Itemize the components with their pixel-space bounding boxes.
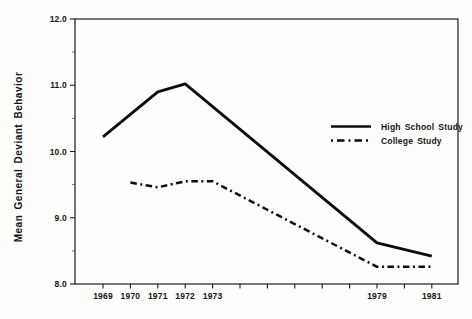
legend-item-high-school-study: High School Study	[330, 120, 463, 133]
y-tick-label: 12.0	[50, 14, 67, 24]
x-tick-label: 1981	[422, 291, 442, 301]
x-tick-label: 1979	[367, 291, 387, 301]
solid-line-swatch	[330, 123, 372, 130]
x-tick-label: 1972	[175, 291, 195, 301]
y-tick-label: 9.0	[55, 213, 67, 223]
line-chart-figure: Mean General Deviant Behavior 12.011.010…	[0, 0, 472, 319]
x-tick-label: 1969	[93, 291, 113, 301]
dash-dot-line-swatch	[330, 137, 372, 144]
legend-label-high-school-study: High School Study	[381, 122, 463, 132]
y-tick-label: 10.0	[50, 147, 67, 157]
x-tick-label: 1970	[121, 291, 141, 301]
x-tick-label: 1971	[148, 291, 168, 301]
y-tick-label: 11.0	[50, 80, 67, 90]
legend: High School Study College Study	[330, 120, 463, 147]
series-college-study	[130, 181, 431, 266]
x-tick-label: 1973	[203, 291, 223, 301]
legend-item-college-study: College Study	[330, 134, 463, 147]
series-high-school-study	[103, 84, 432, 256]
plot-area: 12.011.010.09.08.01969197019711972197319…	[0, 0, 472, 319]
y-tick-label: 8.0	[55, 279, 67, 289]
legend-label-college-study: College Study	[381, 136, 442, 146]
